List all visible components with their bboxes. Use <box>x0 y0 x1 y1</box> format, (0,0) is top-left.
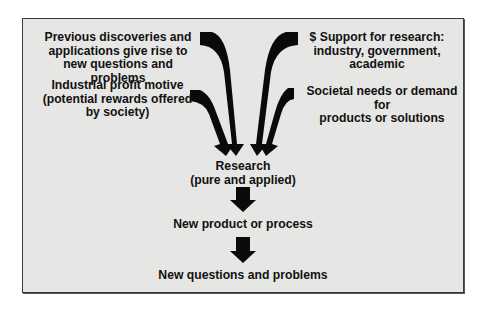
arrow-down-1-icon <box>230 187 256 212</box>
arrow-down-2-icon <box>230 237 256 263</box>
flow-research: Research (pure and applied) <box>183 160 303 187</box>
flow-new-product-or-process: New product or process <box>163 218 323 232</box>
flow-new-questions-and-problems: New questions and problems <box>153 269 333 283</box>
